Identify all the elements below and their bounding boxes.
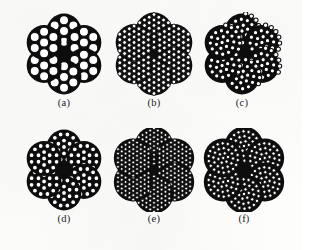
wire-circle [156,199,159,202]
wire-circle [177,192,180,195]
rope-diagram-f [202,128,286,212]
wire-circle [221,166,224,169]
wire-circle [244,188,247,191]
wire-circle [222,180,225,183]
wire-circle [277,35,281,39]
wire-circle [254,161,257,164]
wire-circle [236,70,240,74]
wire-circle [142,52,146,56]
wire-circle [255,137,258,140]
wire-circle [141,204,144,207]
wire-circle [166,157,169,160]
wire-circle [137,72,141,76]
wire-circle [273,181,276,184]
wire-circle [152,81,156,85]
wire-circle [123,64,127,68]
wire-circle [247,201,250,204]
wire-circle [185,178,188,181]
wire-circle [173,163,176,166]
wire-circle [253,156,256,159]
wire-circle [47,153,52,158]
wire-circle [132,52,136,56]
wire-circle [170,165,173,168]
wire-circle [213,192,216,195]
wire-circle [76,176,81,181]
wire-circle [185,170,188,173]
wire-circle [182,58,186,62]
wire-circle [160,206,163,209]
wire-circle [117,181,120,184]
wire-circle [156,208,159,211]
wire-circle [181,157,184,160]
wire-circle [172,47,176,51]
wire-circle [166,152,169,155]
wire-circle [243,135,246,138]
wire-circle [259,148,262,151]
wire-circle [177,66,181,70]
panel-label: (a) [58,97,70,108]
wire-circle [251,188,254,191]
wire-circle [156,182,159,185]
wire-circle [76,159,81,164]
wire-circle [166,83,170,87]
wire-circle [238,206,241,209]
wire-circle [173,157,176,160]
wire-circle [157,72,161,76]
wire-circle [136,172,139,175]
wire-circle [248,206,251,209]
wire-circle [164,186,167,189]
wire-circle [166,143,169,146]
rope-cross-section-drawing [22,12,106,96]
wire-circle [132,174,135,177]
wire-circle [231,167,234,170]
wire-circle [132,157,135,160]
wire-circle [62,184,67,189]
wire-circle [170,178,173,181]
wire-circle [124,165,127,168]
wire-circle [51,188,56,193]
wire-circle [258,167,261,170]
wire-circle [162,64,166,68]
wire-circle [173,181,176,184]
wire-circle [132,35,136,39]
wire-circle [157,61,161,65]
wire-circle [156,204,159,207]
wire-circle [186,43,190,47]
wire-circle [214,30,218,34]
wire-circle [136,146,139,149]
wire-circle [124,152,127,155]
wire-circle [79,38,88,47]
wire-circle [236,177,239,180]
wire-circle [237,201,240,204]
wire-circle [32,188,37,193]
wire-circle [225,184,228,187]
wire-circle [147,165,150,168]
wire-circle [276,149,279,152]
wire-circle [257,194,260,197]
wire-circle [153,206,156,209]
wire-circle [79,61,88,70]
wire-circle [71,200,76,205]
wire-circle [260,153,263,156]
wire-circle [132,189,135,192]
wire-circle [216,143,219,146]
wire-circle [160,184,163,187]
wire-circle [153,179,156,182]
panel-a: (a) [22,12,106,108]
wire-circle [258,143,261,146]
wire-circle [139,176,142,179]
wire-circle [137,32,141,36]
wire-circle [274,29,278,33]
wire-circle [226,155,229,158]
wire-circle [222,171,225,174]
wire-circle [40,38,49,47]
wire-circle [277,58,281,62]
wire-circle [189,157,192,160]
wire-circle [156,195,159,198]
wire-circle [91,170,96,175]
wire-circle [237,35,241,39]
wire-circle [220,40,224,44]
wire-circle [219,29,223,33]
wire-circle [222,156,225,159]
wire-circle [162,150,165,153]
